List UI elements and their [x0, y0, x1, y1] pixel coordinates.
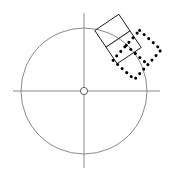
drawing-canvas[interactable]: [0, 0, 176, 178]
drawing-svg[interactable]: [0, 0, 176, 178]
rotation-center-marker[interactable]: [80, 87, 87, 94]
rotation-center-marker-dot[interactable]: [80, 87, 87, 94]
